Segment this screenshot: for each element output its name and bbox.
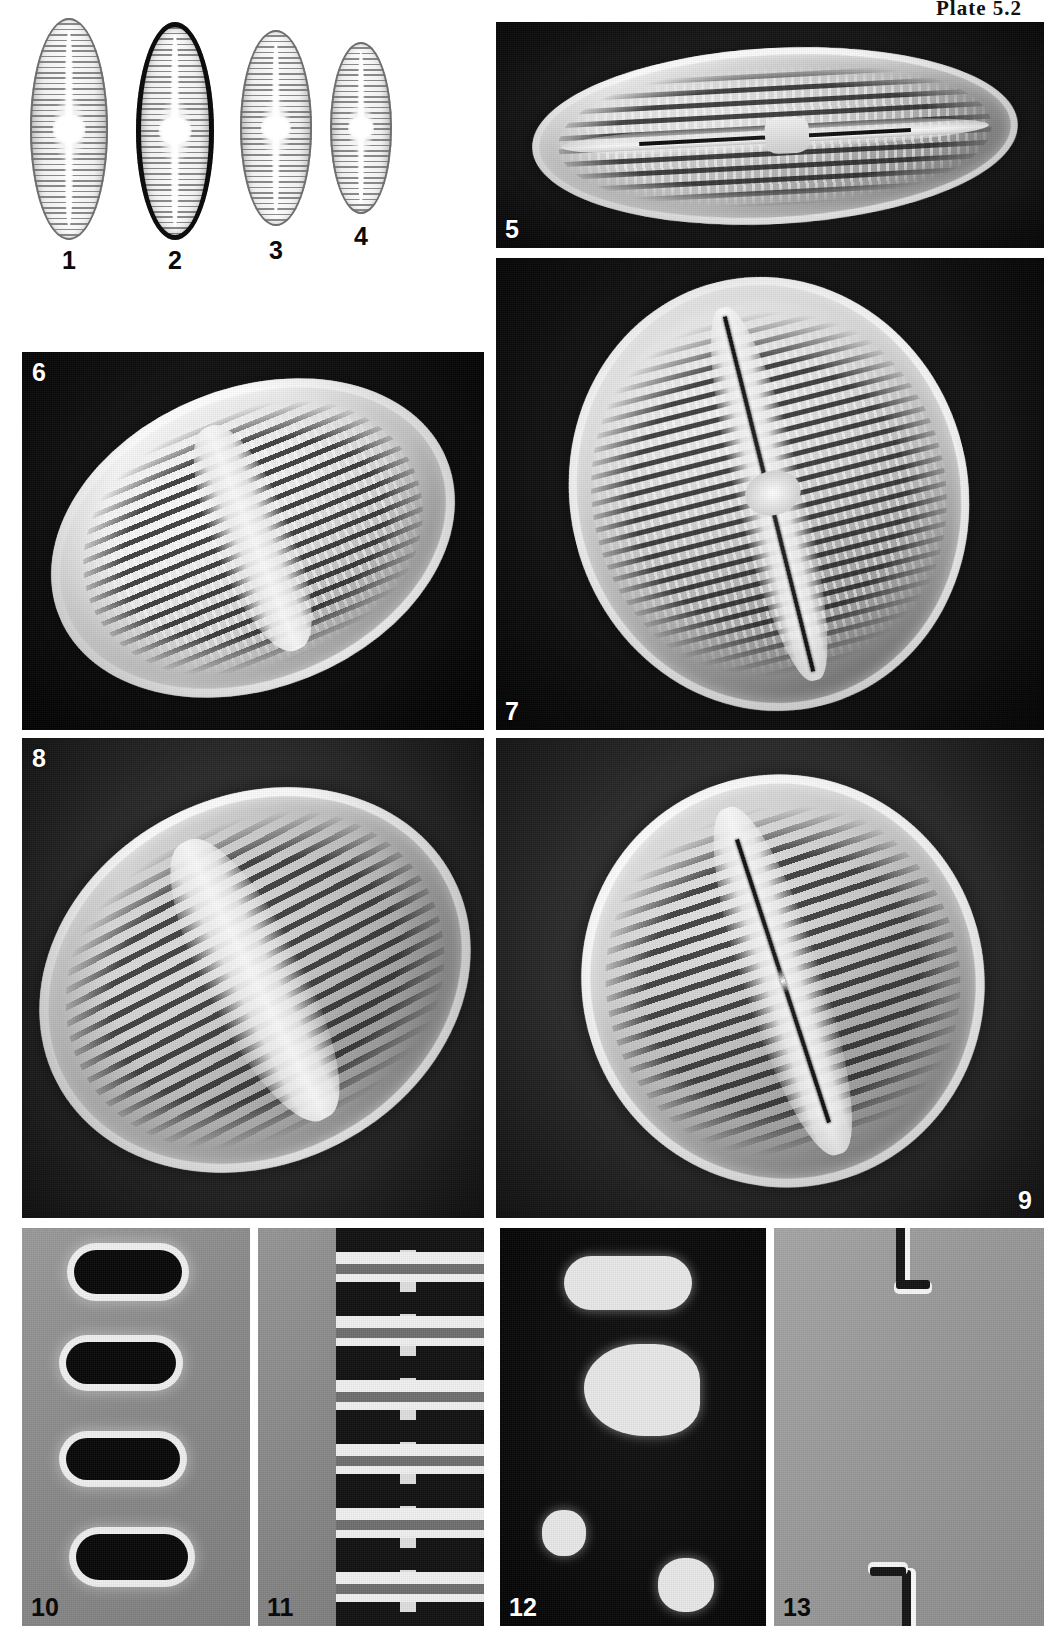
diatom-valve-outline-2 [136, 22, 214, 240]
diatom-valve-outline-3 [240, 30, 312, 226]
raphe-ending-top-hook [896, 1280, 930, 1289]
detail-panel-11: 11 [258, 1228, 484, 1626]
sem-panel-label-7: 7 [505, 699, 519, 724]
raphe-ending-bottom [902, 1570, 911, 1626]
detail-panel-12: 12 [500, 1228, 766, 1626]
raphe-1 [68, 38, 70, 220]
central-area-4 [348, 117, 374, 139]
areola-pore-4 [76, 1534, 188, 1580]
lm-figure-4 [330, 42, 392, 214]
areola-blob-3 [542, 1510, 586, 1556]
raphe-2 [174, 42, 176, 221]
lm-figure-label-4: 4 [330, 222, 392, 251]
diatom-valve-outline-1 [30, 18, 108, 240]
areola-pore-2 [66, 1342, 176, 1384]
sem-panel-9: 9 [496, 738, 1044, 1218]
diatom-valve-outline-4 [330, 42, 392, 214]
detail-panel-13: 13 [774, 1228, 1044, 1626]
areola-blob-1 [564, 1256, 692, 1310]
raphe-ending-top [896, 1228, 905, 1288]
sem-panel-7: 7 [496, 258, 1044, 730]
detail-panel-label-11: 11 [267, 1595, 293, 1620]
striae-center-line-11 [400, 1228, 416, 1626]
central-nodule-5 [764, 117, 810, 154]
lm-figure-2 [136, 22, 214, 240]
raphe-ending-bottom-hook [870, 1567, 906, 1576]
lm-figure-3 [240, 30, 312, 226]
central-area-3 [261, 115, 291, 140]
light-microscopy-block: 1 2 3 4 [0, 0, 470, 300]
detail-panel-label-10: 10 [31, 1595, 59, 1620]
lm-figure-1 [30, 18, 108, 240]
areola-blob-4 [658, 1558, 714, 1612]
central-area-1 [53, 115, 86, 144]
detail-panel-label-12: 12 [509, 1595, 537, 1620]
central-area-2 [159, 117, 192, 145]
raphe-4 [360, 57, 362, 198]
areola-pore-1 [74, 1250, 182, 1294]
detail-panel-10: 10 [22, 1228, 250, 1626]
scientific-plate: Plate 5.2 1 2 3 [0, 0, 1044, 1648]
lm-figure-label-1: 1 [30, 246, 108, 275]
areola-blob-2 [584, 1344, 700, 1436]
raphe-3 [275, 48, 277, 209]
plate-header-label: Plate 5.2 [936, 0, 1022, 21]
sem-panel-8: 8 [22, 738, 484, 1218]
lm-figure-label-2: 2 [136, 246, 214, 275]
sem-panel-label-8: 8 [32, 746, 46, 771]
sem-panel-label-6: 6 [32, 360, 46, 385]
areola-pore-3 [66, 1438, 180, 1480]
lm-figure-label-3: 3 [240, 236, 312, 265]
sem-panel-6: 6 [22, 352, 484, 730]
sem-panel-label-9: 9 [1018, 1188, 1032, 1213]
detail-panel-label-13: 13 [783, 1595, 811, 1620]
sem-panel-label-5: 5 [505, 217, 519, 242]
sem-panel-5: 5 [496, 22, 1044, 248]
